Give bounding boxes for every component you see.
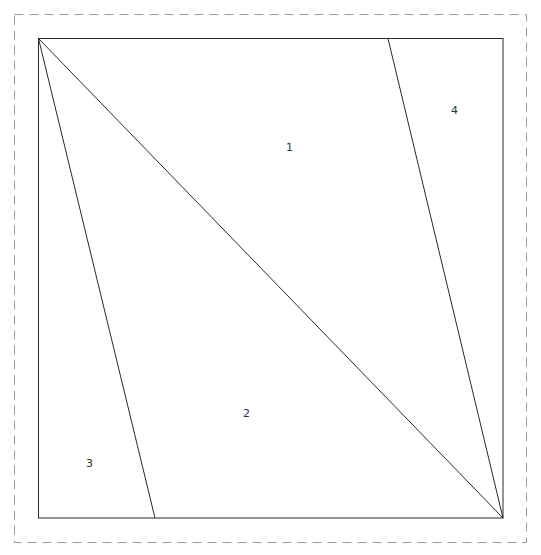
- piece-label-1: 1: [286, 141, 293, 154]
- piece-label-3: 3: [86, 457, 93, 470]
- piece-label-2: 2: [243, 407, 250, 420]
- piece-label-4: 4: [451, 104, 458, 117]
- seam-diagonal: [39, 39, 504, 519]
- seam-left: [39, 39, 156, 519]
- quilt-block-diagram: 1 2 3 4: [0, 0, 541, 555]
- seam-right: [388, 39, 503, 519]
